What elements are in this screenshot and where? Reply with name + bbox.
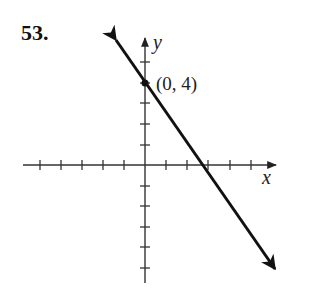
y-axis-label: y (151, 31, 162, 54)
coordinate-graph: (0, 4) y x (0, 0, 319, 308)
point-label: (0, 4) (156, 73, 197, 95)
x-axis-label: x (261, 166, 271, 188)
point-marker (142, 80, 149, 87)
x-axis (23, 160, 276, 170)
